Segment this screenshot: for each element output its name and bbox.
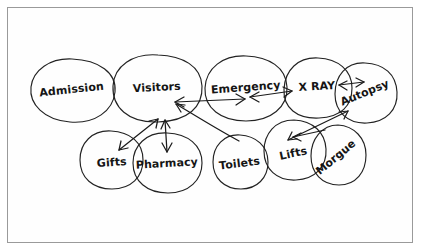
bubble-diagram-sketch: Admission Visitors Emergency X RAY Autop… — [0, 0, 421, 251]
link-toilets-visitors[interactable] — [176, 104, 239, 141]
link-visitors-pharmacy[interactable] — [161, 120, 172, 152]
bubble-group — [31, 55, 397, 193]
label-toilets: Toilets — [218, 155, 261, 173]
label-lifts: Lifts — [278, 144, 308, 163]
label-pharmacy: Pharmacy — [135, 155, 198, 171]
label-visitors: Visitors — [133, 80, 182, 96]
link-morgue-lifts[interactable] — [293, 130, 325, 141]
label-morgue: Morgue — [313, 137, 358, 178]
screenshot-canvas: Admission Visitors Emergency X RAY Autop… — [0, 0, 421, 251]
label-admission: Admission — [39, 80, 105, 100]
label-gifts: Gifts — [96, 155, 127, 170]
label-xray: X RAY — [298, 79, 336, 94]
